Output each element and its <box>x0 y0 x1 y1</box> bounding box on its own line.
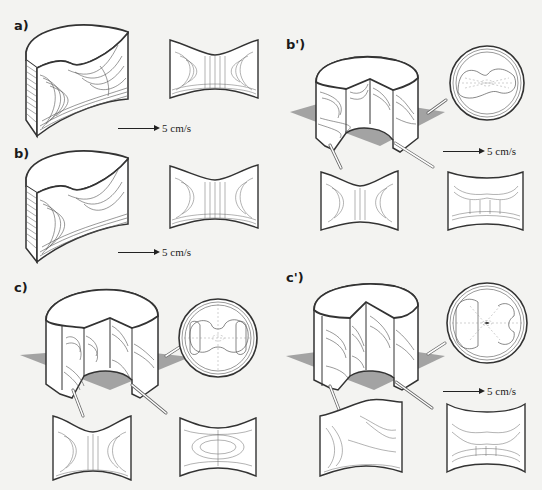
scale-arrow-icon <box>118 128 158 129</box>
panel-b-prime-section-left <box>321 171 398 230</box>
scale-label: 5 cm/s <box>487 385 516 397</box>
velocity-scale-b-prime: 5 cm/s <box>443 145 516 157</box>
scale-arrow-icon <box>443 151 483 152</box>
panel-b-prime-cylinder <box>290 57 446 168</box>
panel-c-prime-horizontal-section <box>447 283 527 363</box>
scale-arrow-icon <box>443 391 483 392</box>
panel-label-c: c) <box>14 280 28 295</box>
panel-c-section-left <box>53 416 131 480</box>
panel-c-prime-section-right <box>447 404 525 472</box>
panel-b-prime-horizontal-section <box>450 46 524 120</box>
panel-c-prime-section-left <box>320 399 402 476</box>
panel-c-cylinder <box>20 290 190 416</box>
velocity-scale-c-prime: 5 cm/s <box>443 385 516 397</box>
velocity-scale-a: 5 cm/s <box>118 122 191 134</box>
panel-b-cylinder <box>26 151 128 262</box>
panel-c-section-right <box>180 418 256 476</box>
panel-c-horizontal-section <box>179 299 257 377</box>
panel-label-b-prime: b') <box>286 37 305 52</box>
panel-c-prime-cylinder <box>286 284 445 412</box>
panel-b-prime-section-right <box>448 172 523 230</box>
panel-label-a: a) <box>14 18 29 33</box>
flow-contour-figure: a) b) b') c) c') 5 cm/s 5 cm/s 5 cm/s 5 … <box>0 0 542 490</box>
panel-label-b: b) <box>14 146 29 161</box>
panel-label-c-prime: c') <box>286 270 304 285</box>
velocity-scale-b: 5 cm/s <box>118 246 191 258</box>
scale-label: 5 cm/s <box>162 246 191 258</box>
scale-arrow-icon <box>118 252 158 253</box>
figure-graphics <box>0 0 542 490</box>
scale-label: 5 cm/s <box>162 122 191 134</box>
panel-a-section <box>170 40 258 98</box>
panel-a-cylinder <box>26 25 128 136</box>
scale-label: 5 cm/s <box>487 145 516 157</box>
panel-b-section <box>170 165 258 228</box>
